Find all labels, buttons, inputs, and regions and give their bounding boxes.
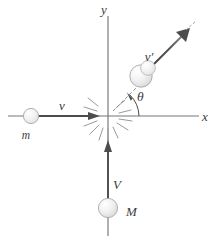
ball-m-body — [23, 108, 38, 123]
vector-v-label: v — [59, 98, 65, 113]
mass-M-label: M — [125, 204, 138, 219]
vector-V-incoming — [104, 140, 112, 200]
vector-v-arrowhead — [88, 112, 100, 120]
collision-diagram-figure: x y θ v m V M v′ — [0, 0, 223, 244]
x-axis-label: x — [201, 109, 208, 124]
diagram-canvas: x y θ v m V M v′ — [0, 0, 223, 244]
vector-v-prime-outgoing — [150, 21, 196, 68]
vector-v-prime-shaft — [150, 34, 184, 68]
vector-V-arrowhead — [104, 140, 112, 152]
y-axis-label: y — [99, 2, 107, 17]
mass-m-label: m — [22, 129, 30, 141]
vector-v-prime-label: v′ — [145, 49, 154, 64]
vector-v-incoming — [34, 112, 100, 120]
collision-burst-icon — [82, 98, 132, 142]
vector-V-label: V — [113, 177, 123, 192]
ball-large-mass-M — [98, 198, 117, 217]
vector-v-prime-tail-extension — [186, 21, 196, 30]
theta-angle-label: θ — [137, 89, 144, 104]
ball-outgoing-mass — [130, 61, 156, 88]
ball-small-mass-m — [23, 108, 38, 123]
ball-M-body — [98, 198, 117, 217]
